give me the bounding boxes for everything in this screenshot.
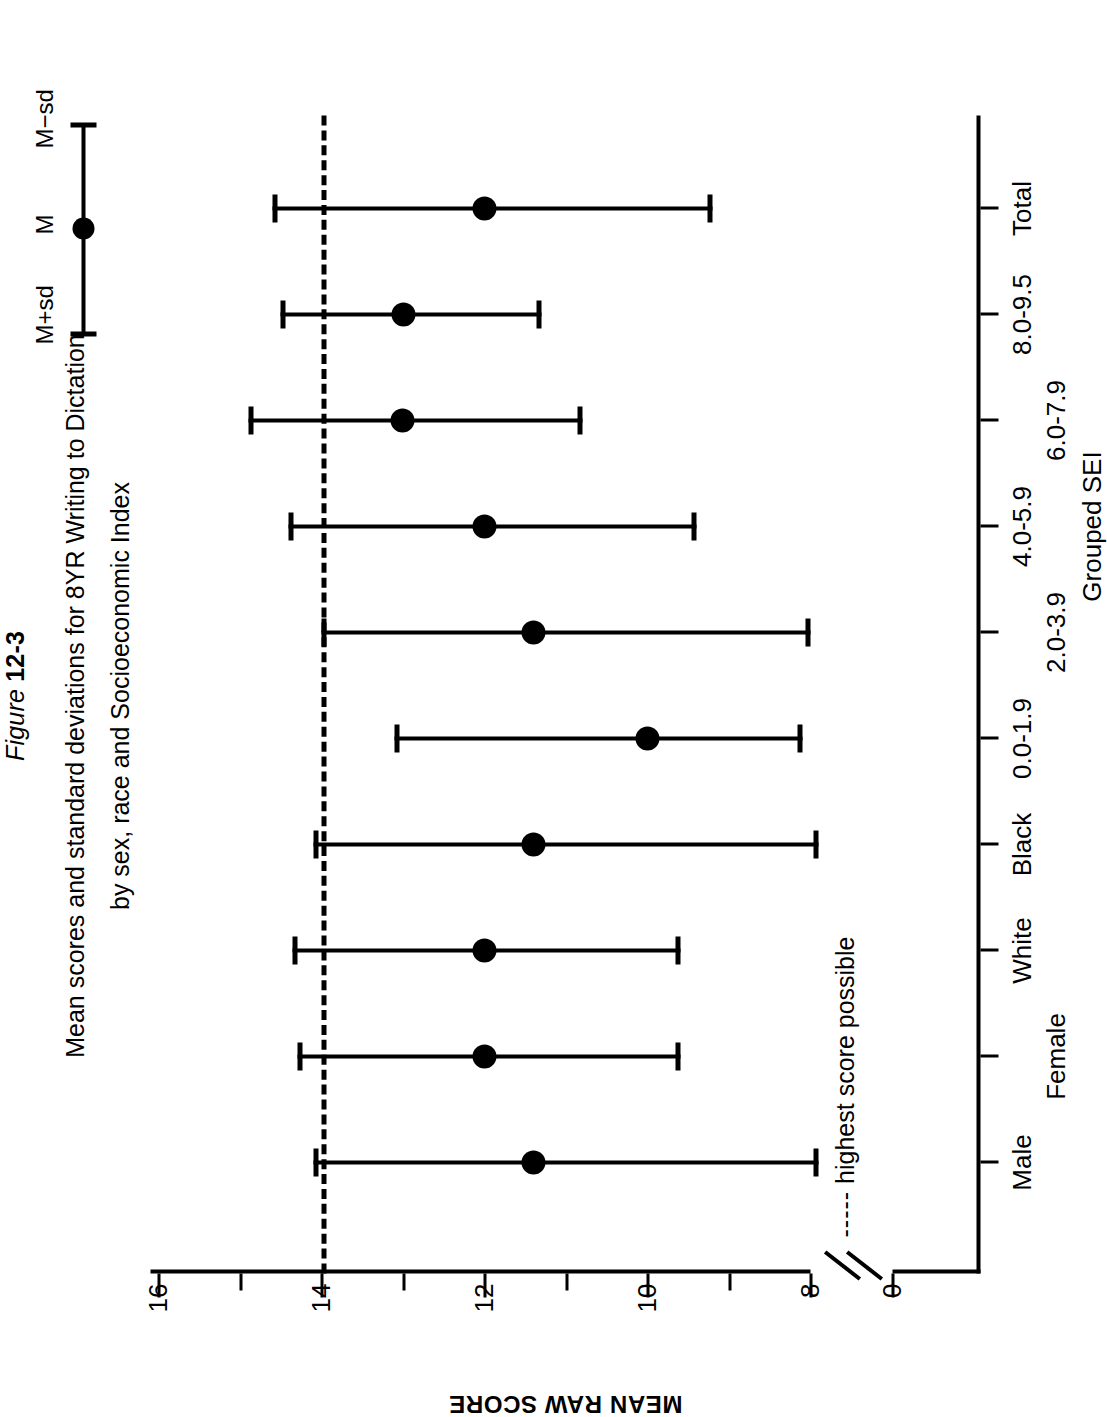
x-category-label-White: White	[1006, 917, 1037, 983]
legend-errorbar-cap-lower	[70, 122, 96, 127]
errorbar-cap-lower-White	[675, 936, 680, 964]
x-category-label-Black: Black	[1006, 812, 1037, 876]
annotation-dashes: -----	[830, 1190, 858, 1237]
x-axis-line	[976, 115, 980, 1273]
x-tick-6.0-7.9	[980, 418, 998, 421]
mean-marker-White	[472, 938, 496, 962]
y-axis-line-upper	[150, 1269, 810, 1273]
mean-marker-Male	[521, 1150, 545, 1174]
x-tick-Black	[980, 842, 998, 845]
errorbar-8.0-9.5	[280, 300, 541, 328]
errorbar-White	[292, 936, 679, 964]
errorbar-0.0-1.9	[394, 724, 802, 752]
errorbar-cap-upper-Total	[272, 194, 277, 222]
errorbar-cap-lower-0.0-1.9	[797, 724, 802, 752]
errorbar-Female	[297, 1042, 680, 1070]
x-tick-4.0-5.9	[980, 524, 998, 527]
y-tick-label-0: 0	[877, 1283, 908, 1297]
axis-break-slash-1	[823, 1250, 860, 1280]
legend-errorbar-icon	[70, 118, 94, 340]
mean-marker-4.0-5.9	[472, 514, 496, 538]
errorbar-Male	[313, 1148, 818, 1176]
errorbar-cap-lower-Black	[813, 830, 818, 858]
x-tick-White	[980, 948, 998, 951]
errorbar-stem-2.0-3.9	[321, 630, 810, 634]
legend-mean-dot-icon	[72, 217, 94, 239]
reference-line-highest-score	[321, 115, 326, 1273]
figure-number-value: 12-3	[0, 630, 28, 681]
legend-label-mean: M	[30, 214, 58, 234]
mean-marker-2.0-3.9	[521, 620, 545, 644]
x-category-label-4.0-5.9: 4.0-5.9	[1006, 486, 1037, 567]
x-tick-Total	[980, 206, 998, 209]
y-axis-line-lower	[892, 1269, 980, 1273]
errorbar-cap-lower-Male	[813, 1148, 818, 1176]
errorbar-cap-lower-Total	[707, 194, 712, 222]
x-category-label-2.0-3.9: 2.0-3.9	[1040, 592, 1071, 673]
y-tick-label-16: 16	[143, 1283, 174, 1312]
legend-label-upper: M+sd	[30, 285, 58, 344]
plot-area: MEAN RAW SCORE 8101214160 ----- highest …	[150, 115, 980, 1273]
x-tick-0.0-1.9	[980, 736, 998, 739]
errorbar-cap-upper-Black	[313, 830, 318, 858]
x-category-label-Female: Female	[1040, 1013, 1071, 1100]
y-tick-13	[402, 1273, 405, 1290]
x-category-label-Total: Total	[1006, 181, 1037, 236]
errorbar-cap-lower-8.0-9.5	[536, 300, 541, 328]
errorbar-Black	[313, 830, 818, 858]
mean-marker-0.0-1.9	[635, 726, 659, 750]
errorbar-cap-upper-4.0-5.9	[288, 512, 293, 540]
figure-number-prefix: Figure	[0, 681, 28, 760]
errorbar-cap-upper-8.0-9.5	[280, 300, 285, 328]
errorbar-cap-lower-4.0-5.9	[691, 512, 696, 540]
y-axis-title: MEAN RAW SCORE	[150, 1383, 980, 1417]
x-category-label-0.0-1.9: 0.0-1.9	[1006, 698, 1037, 779]
errorbar-2.0-3.9	[321, 618, 810, 646]
mean-marker-Black	[521, 832, 545, 856]
y-axis-title-text: MEAN RAW SCORE	[448, 1389, 682, 1417]
errorbar-stem-0.0-1.9	[394, 736, 802, 740]
x-category-label-8.0-9.5: 8.0-9.5	[1006, 274, 1037, 355]
y-tick-label-10: 10	[632, 1283, 663, 1312]
errorbar-4.0-5.9	[288, 512, 696, 540]
legend-errorbar-cap-upper	[70, 331, 96, 336]
y-tick-15	[239, 1273, 242, 1290]
errorbar-cap-upper-2.0-3.9	[321, 618, 326, 646]
errorbar-stem-Black	[313, 842, 818, 846]
legend-labels: M+sd M M−sd	[22, 44, 58, 344]
mean-marker-6.0-7.9	[390, 408, 414, 432]
x-category-label-6.0-7.9: 6.0-7.9	[1040, 380, 1071, 461]
annotation-text: highest score possible	[830, 936, 858, 1190]
errorbar-cap-upper-0.0-1.9	[394, 724, 399, 752]
errorbar-cap-upper-Female	[297, 1042, 302, 1070]
mean-marker-8.0-9.5	[391, 302, 415, 326]
errorbar-Total	[272, 194, 712, 222]
axis-break-slash-2	[845, 1250, 882, 1280]
mean-marker-Female	[472, 1044, 496, 1068]
y-tick-9	[728, 1273, 731, 1290]
y-tick-label-14: 14	[306, 1283, 337, 1312]
errorbar-cap-lower-2.0-3.9	[805, 618, 810, 646]
x-axis-group-label: Grouped SEI	[1076, 451, 1107, 601]
mean-marker-Total	[472, 196, 496, 220]
x-category-label-Male: Male	[1006, 1134, 1037, 1190]
y-tick-11	[565, 1273, 568, 1290]
errorbar-cap-upper-White	[292, 936, 297, 964]
errorbar-cap-upper-Male	[313, 1148, 318, 1176]
y-tick-label-12: 12	[469, 1283, 500, 1312]
errorbar-cap-lower-Female	[675, 1042, 680, 1070]
errorbar-cap-upper-6.0-7.9	[248, 406, 253, 434]
y-tick-label-8: 8	[795, 1283, 826, 1297]
reference-line-annotation: ----- highest score possible	[830, 936, 859, 1237]
legend-label-lower: M−sd	[30, 89, 58, 148]
errorbar-stem-Male	[313, 1160, 818, 1164]
errorbar-6.0-7.9	[248, 406, 582, 434]
x-tick-2.0-3.9	[980, 630, 998, 633]
x-tick-Male	[980, 1160, 998, 1163]
errorbar-cap-lower-6.0-7.9	[577, 406, 582, 434]
x-tick-8.0-9.5	[980, 312, 998, 315]
legend: M+sd M M−sd	[22, 44, 118, 344]
x-tick-Female	[980, 1054, 998, 1057]
